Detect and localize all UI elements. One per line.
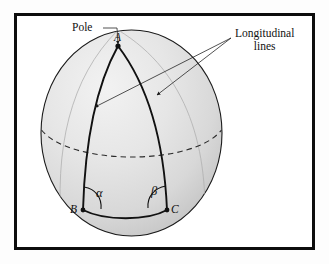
label-vertex-b: B [70, 203, 77, 215]
label-angle-alpha: α [96, 186, 103, 201]
label-longitudinal-line2: lines [254, 40, 276, 52]
label-pole: Pole [72, 21, 92, 33]
label-angle-beta: β [151, 184, 157, 199]
label-longitudinal-lines: Longitudinal lines [235, 27, 294, 52]
vertex-dot-a [115, 43, 120, 48]
label-vertex-c: C [171, 203, 179, 215]
label-longitudinal-line1: Longitudinal [235, 27, 294, 39]
label-vertex-a: A [114, 31, 121, 43]
vertex-dot-c [165, 208, 170, 213]
figure-root: Pole Longitudinal lines A B C α β [0, 0, 329, 264]
vertex-dot-b [81, 208, 86, 213]
